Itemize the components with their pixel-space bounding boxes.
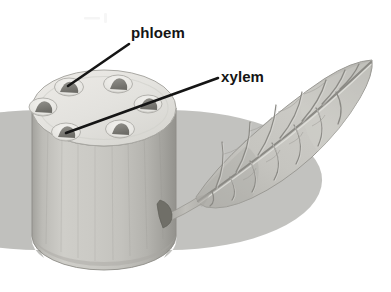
scan-artifact	[84, 13, 107, 23]
vascular-bundle	[55, 78, 84, 96]
stem-vascular-diagram: phloem xylem	[0, 0, 391, 292]
vascular-bundle	[104, 75, 133, 93]
diagram-canvas: phloem xylem	[0, 0, 391, 292]
xylem-label: xylem	[221, 68, 264, 85]
vascular-bundle	[29, 98, 57, 116]
vascular-bundle	[106, 120, 135, 138]
phloem-label: phloem	[131, 24, 185, 41]
